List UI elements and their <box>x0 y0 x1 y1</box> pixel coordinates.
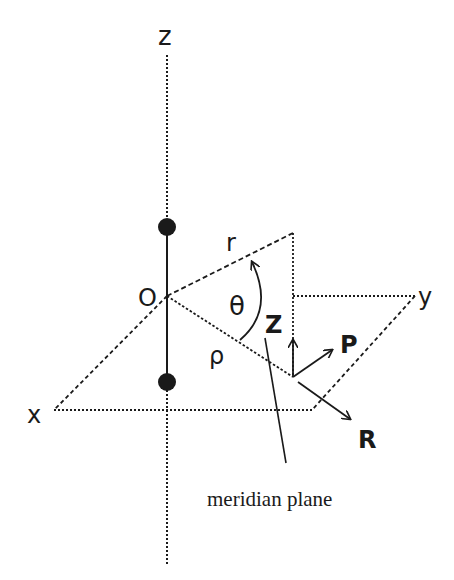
y-axis-label: y <box>418 283 432 311</box>
origin-label: O <box>138 284 157 312</box>
r-component-arrow <box>298 382 350 419</box>
upper-point-charge <box>158 218 176 236</box>
p-component-arrow <box>293 350 332 377</box>
p-component-label: P <box>340 331 358 359</box>
meridian-leader-line <box>265 338 286 463</box>
x-axis-line <box>54 296 167 410</box>
cylindrical-coordinate-diagram: z O r θ ρ Z P R y x meridian plane <box>0 0 454 580</box>
meridian-plane-label: meridian plane <box>207 487 332 511</box>
z-axis-label: z <box>158 21 172 51</box>
z-component-label: Z <box>265 311 282 339</box>
theta-label: θ <box>229 291 245 321</box>
radius-label: r <box>226 229 236 257</box>
rho-label: ρ <box>209 342 224 370</box>
lower-point-charge <box>158 373 176 391</box>
r-component-label: R <box>358 426 376 454</box>
x-axis-label: x <box>27 401 41 429</box>
